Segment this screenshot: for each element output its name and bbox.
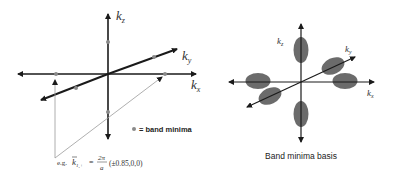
dot-kz-neg [106, 110, 110, 114]
formula-equals: = [89, 158, 94, 167]
dot-kz-pos [106, 40, 110, 44]
kx-label-right: kx [367, 88, 374, 99]
kx-label: kx [191, 77, 201, 94]
ellipse-kx-neg [246, 73, 271, 89]
ellipse-kx-pos [333, 73, 358, 89]
band-minima-dots [54, 40, 167, 114]
dot-ky-neg [74, 86, 78, 90]
left-diagram: kz ky kx = band minima e.g. k1,+ = 2π a … [18, 8, 201, 172]
legend-text: = band minima [139, 125, 193, 134]
formula-vector: (±0.85,0,0) [109, 159, 143, 168]
ky-label-right: ky [345, 44, 352, 55]
kz-label-right: kz [277, 36, 284, 47]
band-minima-figure: kz ky kx = band minima e.g. k1,+ = 2π a … [0, 0, 394, 177]
formula-lhs: k1,+ [72, 157, 83, 169]
formula-denominator: a [100, 164, 104, 172]
dot-kx-pos [163, 72, 167, 76]
ky-label: ky [182, 48, 192, 65]
formula-numerator: 2π [98, 154, 106, 162]
caption: Band minima basis [265, 151, 337, 161]
kz-label: kz [116, 8, 126, 25]
legend-dot-icon [132, 127, 136, 131]
legend: = band minima [132, 125, 193, 134]
ky-axis [108, 49, 177, 74]
formula-prefix: e.g. [57, 159, 67, 167]
example-formula: e.g. k1,+ = 2π a (±0.85,0,0) [57, 154, 143, 172]
right-diagram: kz ky kx Band minima basis [229, 24, 374, 161]
dot-ky-pos [152, 55, 156, 59]
dot-kx-neg [54, 72, 58, 76]
